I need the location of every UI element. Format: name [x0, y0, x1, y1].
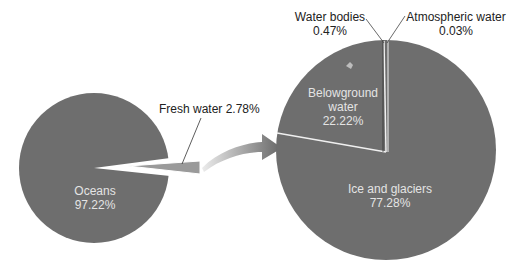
fresh-water-leader [182, 118, 201, 164]
flow-arrow-icon [202, 134, 282, 172]
belowground-label: Belowground water 22.22% [303, 86, 383, 128]
ice-glaciers-label: Ice and glaciers 77.28% [335, 182, 445, 210]
atmospheric-water-label: Atmospheric water 0.03% [403, 10, 509, 38]
oceans-label: Oceans 97.22% [64, 184, 126, 212]
water-bodies-label: Water bodies 0.47% [290, 10, 370, 38]
water-distribution-chart [0, 0, 517, 277]
fresh-water-label: Fresh water 2.78% [159, 102, 260, 116]
fresh-water-pie [276, 40, 496, 260]
